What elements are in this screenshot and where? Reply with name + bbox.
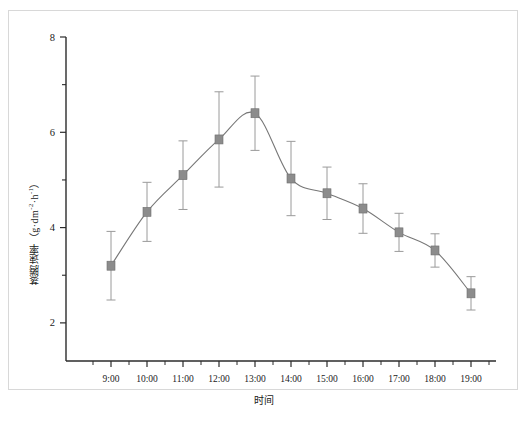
- y-axis-unit-close: ）: [30, 177, 41, 188]
- error-bars-group: [107, 76, 476, 310]
- svg-text:15:00: 15:00: [316, 374, 338, 384]
- x-axis-tick-labels: 9:0010:0011:0012:0013:0014:0015:0016:001…: [103, 374, 483, 384]
- svg-text:18:00: 18:00: [424, 374, 446, 384]
- svg-text:10:00: 10:00: [136, 374, 158, 384]
- svg-text:8: 8: [50, 32, 55, 43]
- y-axis-unit-mid: ·h: [30, 194, 41, 203]
- chart-axes: [60, 37, 496, 367]
- svg-text:6: 6: [50, 127, 55, 138]
- svg-text:14:00: 14:00: [280, 374, 302, 384]
- svg-text:4: 4: [50, 222, 56, 233]
- x-axis-title: 时间: [0, 392, 528, 407]
- y-axis-unit-exp2: -1: [27, 187, 34, 193]
- figure-frame: 2468 9:0010:0011:0012:0013:0014:0015:001…: [8, 10, 518, 390]
- y-axis-title: 蒸腾速率（g·dm-2·h-1）: [27, 177, 42, 285]
- y-axis-tick-labels: 2468: [50, 32, 56, 329]
- figure-caption: [0, 414, 528, 427]
- y-axis-title-wrap: 蒸腾速率（g·dm-2·h-1）: [25, 151, 45, 311]
- y-axis-title-text: 蒸腾速率: [30, 243, 41, 285]
- svg-text:11:00: 11:00: [172, 374, 194, 384]
- y-axis-unit-exp1: -2: [27, 203, 34, 209]
- svg-text:12:00: 12:00: [208, 374, 230, 384]
- svg-text:9:00: 9:00: [103, 374, 120, 384]
- svg-text:13:00: 13:00: [244, 374, 266, 384]
- svg-text:19:00: 19:00: [460, 374, 482, 384]
- svg-text:2: 2: [50, 317, 55, 328]
- transpiration-rate-line-chart: 2468 9:0010:0011:0012:0013:0014:0015:001…: [9, 11, 519, 391]
- y-axis-unit-open: （g·dm: [30, 210, 41, 244]
- svg-text:16:00: 16:00: [352, 374, 374, 384]
- svg-text:17:00: 17:00: [388, 374, 410, 384]
